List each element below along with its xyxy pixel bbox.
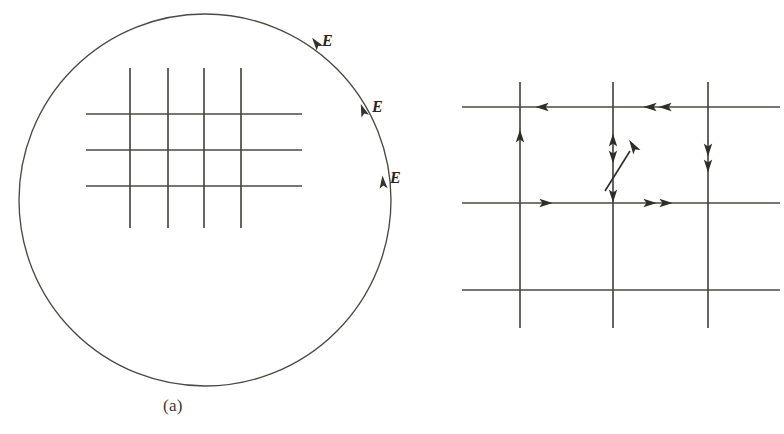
panel-a-horizontal-lines (86, 114, 302, 186)
caption-panel-a: (a) (163, 396, 183, 416)
panel-b-drawing (440, 0, 784, 434)
field-label-e-middle: E (372, 98, 383, 116)
field-vector-e-oblique (605, 137, 640, 191)
panel-b-horizontal-lines (462, 107, 780, 290)
panel-a: E E E (a) (0, 0, 440, 434)
gaussian-circle (19, 14, 391, 386)
panel-b: A B S1 S2 E (b) (440, 0, 784, 434)
panel-a-drawing (0, 0, 440, 434)
panel-b-vertical-lines (520, 82, 708, 328)
field-label-e-top: E (322, 32, 333, 50)
panel-a-vertical-lines (130, 68, 241, 228)
field-label-e-bottom: E (390, 169, 401, 187)
physics-figure: E E E (a) (0, 0, 784, 434)
